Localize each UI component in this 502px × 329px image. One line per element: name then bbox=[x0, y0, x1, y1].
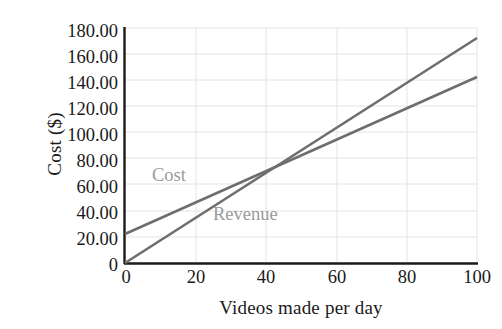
chart-figure: Cost ($) 180.00 160.00 140.00 120.00 100… bbox=[0, 0, 502, 329]
horizontal-gridlines bbox=[124, 28, 478, 237]
plot-area bbox=[0, 0, 502, 329]
series-line-revenue bbox=[125, 38, 477, 263]
series-annotation-cost: Cost bbox=[152, 166, 186, 185]
vertical-gridlines bbox=[196, 28, 477, 263]
series-line-cost bbox=[125, 77, 477, 234]
series-annotation-revenue: Revenue bbox=[213, 205, 278, 224]
x-axis-title: Videos made per day bbox=[124, 297, 478, 319]
